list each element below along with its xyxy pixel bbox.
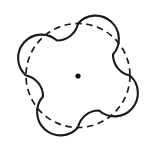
geometric-figure-canvas: Four-petal rounded figure inscribed on a…: [0, 0, 158, 152]
center-point-dot: [75, 73, 80, 78]
